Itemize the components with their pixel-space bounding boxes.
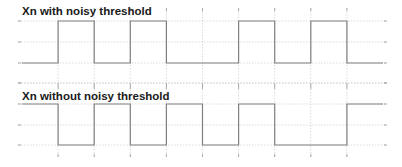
top-chart-title: Xn with noisy threshold <box>22 5 152 17</box>
top-chart-grid <box>18 8 387 86</box>
bottom-chart-signal <box>22 104 383 145</box>
bottom-chart-title: Xn without noisy threshold <box>22 90 170 102</box>
chart-canvas <box>0 0 402 167</box>
